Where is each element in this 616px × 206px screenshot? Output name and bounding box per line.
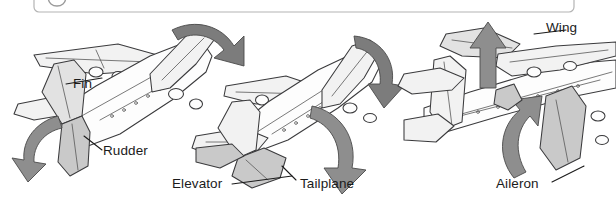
left-rudder [58, 116, 90, 176]
right-aileron [540, 86, 586, 170]
aircraft-control-surfaces-figure: Fin Rudder [0, 0, 616, 206]
tailplane-label: Tailplane [300, 176, 354, 191]
rudder-label: Rudder [103, 143, 148, 158]
aileron-label: Aileron [496, 176, 539, 191]
top-badge-frame [34, 0, 574, 12]
fin-label: Fin [73, 76, 92, 91]
elevator-label: Elevator [172, 176, 223, 191]
top-badge [34, 0, 574, 12]
figure-canvas: Fin Rudder [0, 0, 616, 206]
wing-label: Wing [546, 20, 577, 35]
